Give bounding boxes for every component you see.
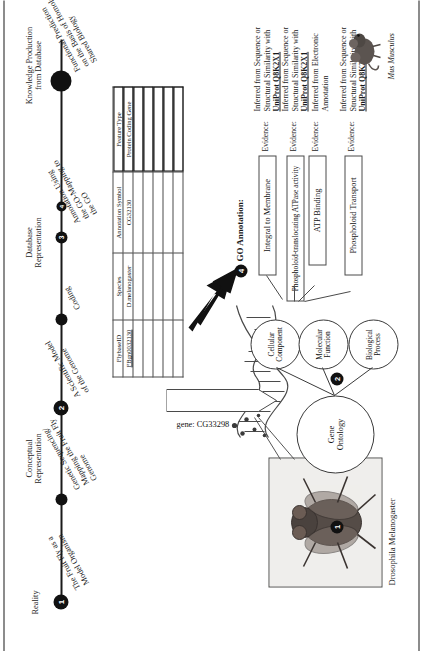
evidence-mid: Similarity with (262, 29, 271, 77)
reference-organism-caption: Mus Musculus (386, 33, 395, 79)
organism-photo (268, 457, 382, 587)
timeline-phase-knowledge: Knowledge Productionfrom Database (24, 7, 43, 123)
fruit-fly-icon (269, 458, 381, 586)
cell-blank (153, 253, 163, 320)
go-term-box-0[interactable]: Integral to Membrane (258, 155, 276, 275)
root-label: GeneOntology (326, 418, 344, 450)
table-header-species: Species (113, 253, 123, 320)
evidence-label-3: Evidence: (346, 121, 355, 151)
cell-blank (153, 87, 163, 172)
go-term-label: ATP Binding (312, 188, 321, 232)
branch-label: BiologicalProcess (365, 329, 381, 360)
evidence-text-2: Inferred from Electronic Annotation (310, 0, 329, 111)
evidence-mid: Similarity with (290, 29, 299, 77)
page-rule-top (3, 0, 4, 651)
evidence-label-2: Evidence: (310, 121, 319, 151)
table-row-blank-3 (153, 87, 163, 377)
go-term-connectors (252, 265, 372, 321)
timeline-node-3[interactable]: 2 (53, 400, 68, 415)
evidence-label-0: Evidence: (260, 121, 269, 151)
timeline-event-annotation-go: Annotation Usingthe GO-Mapping tothe GO (42, 153, 99, 225)
timeline-event-scientific-model: A Scientific Modelof the Genome (43, 334, 91, 399)
cell-blank (143, 87, 153, 172)
cell-blank (143, 172, 153, 253)
table-header-row: FlybaseID Species Annotation Symbol Feat… (113, 87, 123, 377)
branch-label: MolecularFunction (315, 329, 331, 359)
evidence-db: UniProt Q8K2X1 (271, 51, 280, 111)
ontology-root-gene-ontology[interactable]: GeneOntology (296, 395, 374, 473)
branch-label: CellularComponent (267, 327, 283, 362)
cell-blank (163, 320, 173, 377)
cell-blank (153, 320, 163, 377)
cell-species: D.melanogaster (123, 253, 133, 320)
cell-blank (163, 172, 173, 253)
ontology-links (256, 361, 386, 401)
cell-blank (133, 253, 143, 320)
flybase-table[interactable]: FlybaseID Species Annotation Symbol Feat… (112, 86, 183, 377)
table-header-flybaseid: FlybaseID (113, 320, 123, 377)
go-term-label: Phospholoid Transport (348, 177, 357, 253)
table-header-annotation-symbol: Annotation Symbol (113, 172, 123, 253)
table-row[interactable]: FBgn0032130 D.melanogaster CG32130 Prote… (123, 87, 133, 377)
page-rule-bottom (418, 0, 419, 651)
go-term-label: Integral to Membrane (262, 178, 271, 251)
timeline-node-7[interactable] (50, 70, 71, 91)
evidence-text-1: Inferred from Sequence or Structural Sim… (280, 3, 309, 111)
cell-annotation-symbol: CG32130 (123, 172, 133, 253)
go-term-box-2[interactable]: ATP Binding (308, 155, 326, 265)
table-header-feature-type: Feature Type (113, 87, 123, 172)
gene-callout-label: gene: CG33298 (176, 419, 276, 428)
timeline-phase-reality: Reality (30, 571, 39, 633)
timeline-node-2[interactable] (55, 493, 67, 505)
timeline-node-5[interactable]: 3 (55, 231, 67, 243)
cell-blank (133, 172, 143, 253)
cell-blank (173, 172, 183, 253)
mouse-illustration-icon (342, 27, 382, 73)
timeline-event-model-organism: The Fruit Fly as aModel Organism (45, 530, 91, 591)
cell-blank (163, 87, 173, 172)
organism-caption: Drosophila Melanogaster (386, 498, 396, 585)
timeline-phase-database: DatabaseRepresentation (24, 199, 43, 285)
timeline-event-coding: Coding (62, 285, 82, 311)
go-annotation-label: GO Annotation: (234, 199, 244, 261)
table-row-blank-2 (143, 87, 153, 377)
cell-blank (143, 253, 153, 320)
cell-blank (153, 172, 163, 253)
cell-blank (173, 87, 183, 172)
cell-blank (173, 320, 183, 377)
evidence-text-0: Inferred from Sequence or Structural Sim… (252, 3, 281, 111)
cell-blank (133, 87, 143, 172)
evidence-label-1: Evidence: (288, 121, 297, 151)
cell-feature-type: Protein Coding Gene (123, 87, 133, 172)
cell-blank (143, 320, 153, 377)
annotation-flow-arrow-icon (186, 259, 252, 333)
cell-blank (163, 253, 173, 320)
table-row-blank-1 (133, 87, 143, 377)
go-term-box-3[interactable]: Phospholoid Transport (344, 155, 362, 275)
timeline-node-1[interactable]: 1 (53, 594, 68, 609)
table-row-blank-5 (173, 87, 183, 377)
cell-flybaseid: FBgn0032130 (123, 320, 133, 377)
table-row-blank-4 (163, 87, 173, 377)
timeline-node-4[interactable] (55, 313, 67, 325)
figure-canvas: Reality ConceptualRepresentation Databas… (0, 0, 423, 651)
stage-badge-1[interactable]: 1 (330, 520, 343, 533)
evidence-prefix: Inferred from Electronic Annotation (310, 33, 329, 111)
cell-blank (173, 253, 183, 320)
timeline-event-sequencing: Genetic Sequencing/Mapping the Fruit Fly… (38, 412, 99, 491)
evidence-db: UniProt Q8K2X1 (299, 51, 308, 111)
cell-blank (133, 320, 143, 377)
